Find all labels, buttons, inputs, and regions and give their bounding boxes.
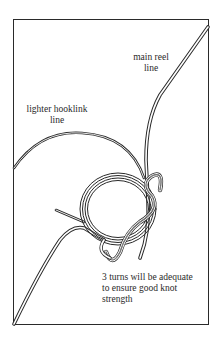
label-line: strength bbox=[102, 294, 210, 305]
turns-note-label: 3 turns will be adequate to ensure good … bbox=[102, 272, 210, 305]
label-line: 3 turns will be adequate bbox=[102, 272, 210, 283]
hooklink-line-label: lighter hooklink line bbox=[20, 104, 94, 126]
label-line: main reel bbox=[128, 52, 174, 63]
hooklink-line bbox=[14, 133, 144, 222]
label-line: to ensure good knot bbox=[102, 283, 210, 294]
main-reel-line-label: main reel line bbox=[128, 52, 174, 74]
label-line: line bbox=[20, 115, 94, 126]
label-line: line bbox=[128, 63, 174, 74]
label-line: lighter hooklink bbox=[20, 104, 94, 115]
